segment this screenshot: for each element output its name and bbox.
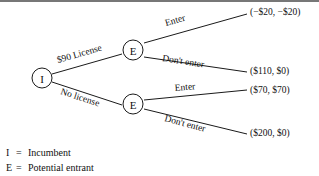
branch-label-no-license: No license xyxy=(59,86,100,108)
diagram-canvas: I E E $90 License No license Enter Don't… xyxy=(0,0,319,176)
legend-key-incumbent: I xyxy=(6,148,16,158)
entrant-node-upper-label: E xyxy=(130,45,137,57)
legend-key-entrant: E xyxy=(6,163,16,173)
branch-label-dont-enter-upper: Don't enter xyxy=(162,53,206,70)
legend-row-incumbent: I=Incumbent xyxy=(6,148,71,158)
payoff-label-3: ($70, $70) xyxy=(250,86,290,96)
legend-equals-entrant: = xyxy=(16,163,28,173)
payoff-label-2: ($110, $0) xyxy=(250,67,289,77)
incumbent-node-label: I xyxy=(40,73,44,85)
branch-label-enter-upper: Enter xyxy=(164,12,187,28)
branch-label-enter-lower: Enter xyxy=(174,81,196,93)
legend-equals-incumbent: = xyxy=(16,148,28,158)
legend-text-entrant: Potential entrant xyxy=(28,162,94,173)
payoff-label-4: ($200, $0) xyxy=(250,129,290,139)
payoff-label-1: (−$20, −$20) xyxy=(250,8,300,18)
branch-label-dont-enter-lower: Don't enter xyxy=(163,113,207,134)
legend-row-entrant: E=Potential entrant xyxy=(6,163,94,173)
legend-text-incumbent: Incumbent xyxy=(28,147,71,158)
branch-line-enter-upper xyxy=(144,14,247,43)
entrant-node-lower-label: E xyxy=(130,99,137,111)
branch-line-enter-lower xyxy=(144,90,247,100)
